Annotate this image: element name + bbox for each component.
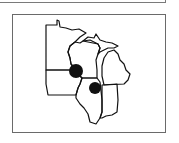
state-indiana (100, 84, 118, 118)
map-marker-2 (89, 82, 101, 94)
state-michigan-lower (102, 50, 130, 85)
midwest-map (0, 0, 179, 143)
map-marker-1 (69, 64, 83, 78)
state-minnesota (46, 20, 86, 70)
